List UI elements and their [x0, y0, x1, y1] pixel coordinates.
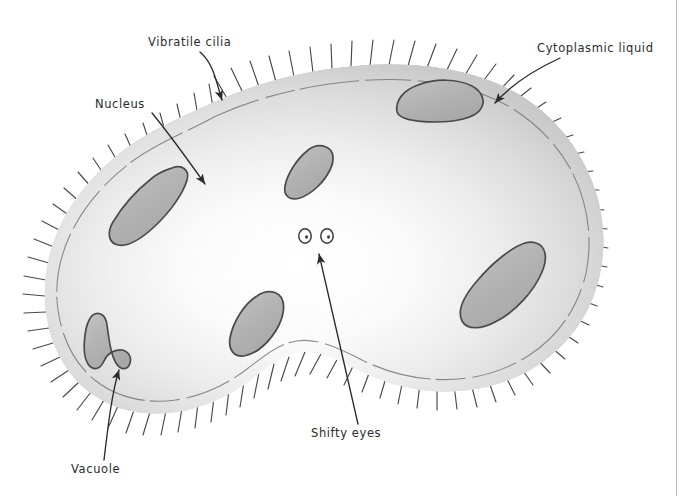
- cell-membrane: [0, 0, 698, 496]
- cell-diagram-figure: Vibratile cilia Cytoplasmic liquid Nucle…: [0, 0, 698, 496]
- label-vacuole: Vacuole: [71, 462, 120, 476]
- page-border-line: [676, 0, 677, 496]
- eye-left-outline: [299, 229, 311, 243]
- eye-left-pupil: [305, 235, 308, 238]
- label-cytoplasmic-liquid: Cytoplasmic liquid: [537, 41, 654, 55]
- label-nucleus: Nucleus: [95, 97, 145, 111]
- eye-right-pupil: [327, 235, 330, 238]
- label-vibratile-cilia: Vibratile cilia: [148, 35, 231, 49]
- eye-right-outline: [321, 229, 333, 243]
- diagram-page: Vibratile cilia Cytoplasmic liquid Nucle…: [0, 0, 698, 496]
- label-shifty-eyes: Shifty eyes: [311, 426, 381, 440]
